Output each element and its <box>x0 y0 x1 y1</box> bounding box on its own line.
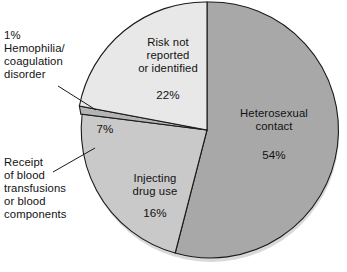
label-receipt-of-blood-transfusions: Receipt of blood transfusions or blood c… <box>4 156 67 220</box>
label-hemophilia-coagulation-disorder: 1% Hemophilia/ coagulation disorder <box>4 29 65 81</box>
label-heterosexual-contact: Heterosexual contact <box>222 107 326 133</box>
value-receipt-of-blood: 7% <box>84 122 126 135</box>
label-risk-not-reported: Risk not reported or identified <box>118 36 218 75</box>
label-injecting-drug-use: Injecting drug use <box>110 172 200 198</box>
pie-chart-figure: 1% Hemophilia/ coagulation disorder Rece… <box>0 0 347 272</box>
value-heterosexual-contact: 54% <box>222 148 326 161</box>
value-injecting-drug-use: 16% <box>110 206 200 219</box>
value-risk-not-reported: 22% <box>118 88 218 101</box>
